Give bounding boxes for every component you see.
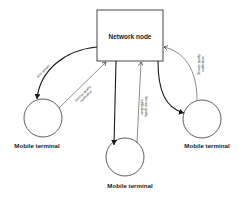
mobile-terminal-middle-label: Mobile terminal [107,182,153,189]
edge-notification-left: Service quality notification [59,62,106,108]
mobile-terminal-middle: Mobile terminal [106,138,153,189]
edge-label-notification-right-line2: notification [201,56,205,71]
svg-text:Service quality notifica: Service quality notification [140,96,148,118]
edge-notification-middle: Service quality notification [137,62,148,143]
mobile-terminal-right-label: Mobile terminal [184,142,230,149]
svg-text:Service quality notifica: Service quality notification [197,53,205,75]
edge-label-notification-middle-line2: notification [140,99,144,114]
edge-stream-middle [114,61,116,145]
mobile-terminal-right: Mobile terminal [183,100,230,149]
edge-notification-right: Service quality notification [164,47,205,100]
network-node: Network node [97,10,163,61]
edge-stream-right [158,61,184,113]
mobile-terminal-left-label: Mobile terminal [14,142,60,149]
mobile-terminal-left: Mobile terminal [14,99,62,149]
network-node-label: Network node [109,33,152,40]
svg-text:Service quality notifica: Service quality notification [74,84,95,105]
diagram-canvas: Network node Mobile terminal Mobile term… [0,0,244,201]
